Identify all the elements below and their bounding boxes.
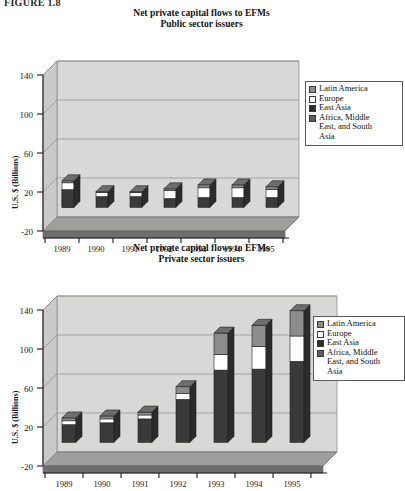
bar-group-1991-private <box>138 406 158 442</box>
chart-subtitle-line2: Public sector issuers <box>0 19 403 30</box>
chart-private-sector: Net private capital flows to EFMs Privat… <box>0 243 403 476</box>
y-tick-20: 20 <box>24 188 34 198</box>
bar-group-1989-private <box>62 412 82 442</box>
y-tick-20-private: 20 <box>24 423 34 433</box>
x-tick-1994-private: 1994 <box>246 479 264 489</box>
y-tick-100: 100 <box>20 110 34 120</box>
bar-group-1991-public <box>130 186 148 208</box>
x-labels-private: 1989 1990 1991 1992 1993 1994 1995 <box>0 477 403 491</box>
legend-public: Latin America Europe East Asia Africa, M… <box>305 81 403 146</box>
y-tick-60-private: 60 <box>24 384 34 394</box>
bar-group-1990-private <box>100 410 120 442</box>
floor-front <box>43 231 285 238</box>
floor-front-private <box>43 466 323 473</box>
legend-private: Latin America Europe East Asia Africa, M… <box>313 316 405 381</box>
legend-swatch-east-asia-icon <box>317 340 324 347</box>
legend-item-africa-private: Africa, Middle East, and South Asia <box>317 348 401 377</box>
floor-private <box>43 452 337 466</box>
plot-area-private: U.S. $ (Billions) <box>0 266 403 491</box>
plot-area-public: U.S. $ (Billions) <box>0 31 403 258</box>
chart-subtitle-private-line2: Private sector issuers <box>0 254 403 265</box>
legend-swatch-europe-icon <box>317 331 324 338</box>
legend-swatch-africa-icon <box>317 350 324 357</box>
y-tick-neg20-private: -20 <box>21 462 33 472</box>
bar-group-1995-private <box>290 305 310 443</box>
y-ticks-public: 140 100 60 20 -20 <box>20 71 44 237</box>
chart-title-private-line1: Net private capital flows to EFMs <box>133 243 269 253</box>
y-axis-label-public: U.S. $ (Billions) <box>11 156 20 209</box>
chart-title-public: Net private capital flows to EFMs Public… <box>0 8 403 31</box>
y-tick-140: 140 <box>20 71 34 81</box>
bar-group-1993-private <box>214 327 234 442</box>
chart-public-sector: Net private capital flows to EFMs Public… <box>0 8 403 240</box>
bar-group-1994-private <box>252 319 272 442</box>
bar-group-1990-public <box>96 186 114 208</box>
legend-swatch-europe-icon <box>309 96 316 103</box>
y-tick-100-private: 100 <box>20 345 34 355</box>
y-tick-neg20: -20 <box>21 227 33 237</box>
legend-swatch-latin-america-icon <box>309 86 316 93</box>
legend-swatch-latin-america-icon <box>317 321 324 328</box>
legend-label-africa: Africa, Middle East, and South Asia <box>319 113 372 142</box>
bar-group-1992-private <box>176 381 196 443</box>
bar-group-1989-public <box>62 175 80 208</box>
figure-label: FIGURE 1.8 <box>4 0 61 8</box>
bar-group-1994-public <box>232 179 250 207</box>
x-tick-1989-private: 1989 <box>56 479 73 489</box>
x-tick-1993-private: 1993 <box>208 479 225 489</box>
y-tick-60: 60 <box>24 149 34 159</box>
legend-swatch-east-asia-icon <box>309 105 316 112</box>
legend-item-africa: Africa, Middle East, and South Asia <box>309 113 399 142</box>
bar-group-1995-public <box>266 181 284 208</box>
x-tick-1991-private: 1991 <box>132 479 149 489</box>
y-axis-label-private: U.S. $ (Billions) <box>11 391 20 444</box>
y-ticks-private: 140 100 60 20 -20 <box>20 306 44 472</box>
chart-title-line1: Net private capital flows to EFMs <box>133 8 269 18</box>
bar-group-1992-public <box>164 183 182 208</box>
x-tick-1995-private: 1995 <box>284 479 301 489</box>
floor <box>43 217 299 231</box>
x-tick-1992-private: 1992 <box>170 479 187 489</box>
x-tick-1990-private: 1990 <box>94 479 111 489</box>
bar-group-1993-public <box>198 179 216 207</box>
legend-label-africa-private: Africa, Middle East, and South Asia <box>327 348 380 377</box>
legend-swatch-africa-icon <box>309 115 316 122</box>
y-tick-140-private: 140 <box>20 306 34 316</box>
chart-title-private: Net private capital flows to EFMs Privat… <box>0 243 403 266</box>
